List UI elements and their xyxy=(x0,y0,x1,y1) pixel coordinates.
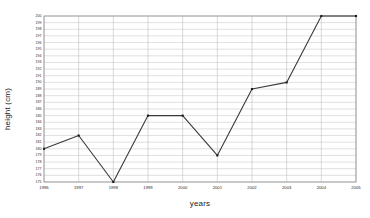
x-tick-label: 1997 xyxy=(74,185,84,190)
y-tick-label: 196 xyxy=(36,41,42,45)
y-tick-label: 198 xyxy=(36,27,42,31)
plot-area: 2001991981971961951941931921911901891881… xyxy=(0,0,370,218)
y-tick-label: 195 xyxy=(36,47,42,51)
y-tick-label: 200 xyxy=(36,14,42,18)
y-tick-label: 190 xyxy=(36,80,42,84)
y-tick-label: 197 xyxy=(36,34,42,38)
data-point-marker xyxy=(43,148,45,150)
y-tick-label: 178 xyxy=(36,160,42,164)
y-tick-label: 189 xyxy=(36,87,42,91)
y-tick-label: 188 xyxy=(36,94,42,98)
y-tick-label: 192 xyxy=(36,67,42,71)
y-tick-label: 179 xyxy=(36,153,42,157)
y-tick-label: 177 xyxy=(36,167,42,171)
y-tick-label: 199 xyxy=(36,21,42,25)
x-tick-label: 2000 xyxy=(178,185,188,190)
data-point-marker xyxy=(78,134,80,136)
y-tick-label: 185 xyxy=(36,114,42,118)
x-tick-label: 2005 xyxy=(351,185,361,190)
data-line xyxy=(44,16,356,182)
data-point-marker xyxy=(147,115,149,117)
x-tick-label: 2004 xyxy=(317,185,327,190)
data-point-marker xyxy=(112,181,114,183)
x-tick-label: 1996 xyxy=(39,185,49,190)
data-point-marker xyxy=(216,154,218,156)
x-tick-label: 1999 xyxy=(143,185,153,190)
x-tick-label: 2003 xyxy=(282,185,292,190)
y-tick-label: 186 xyxy=(36,107,42,111)
data-point-markers xyxy=(43,15,357,183)
y-tick-label: 193 xyxy=(36,60,42,64)
data-point-marker xyxy=(320,15,322,17)
x-tick-label: 2002 xyxy=(247,185,257,190)
data-point-marker xyxy=(182,115,184,117)
data-point-marker xyxy=(251,88,253,90)
vertical-gridlines xyxy=(44,16,356,182)
y-tick-label: 182 xyxy=(36,133,42,137)
y-tick-label: 183 xyxy=(36,127,42,131)
y-tick-label: 191 xyxy=(36,74,42,78)
horizontal-gridlines xyxy=(44,16,356,182)
y-tick-label: 175 xyxy=(36,180,42,184)
x-tick-label: 1998 xyxy=(109,185,119,190)
y-tick-label: 180 xyxy=(36,147,42,151)
data-point-marker xyxy=(355,15,357,17)
x-tick-label: 2001 xyxy=(213,185,223,190)
y-axis-title: height (cm) xyxy=(0,0,14,218)
y-axis-tick-labels: 2001991981971961951941931921911901891881… xyxy=(36,14,42,184)
x-axis-tick-labels: 1996199719981999200020012002200320042005 xyxy=(39,185,361,190)
y-tick-label: 187 xyxy=(36,100,42,104)
y-tick-label: 184 xyxy=(36,120,42,124)
y-tick-label: 176 xyxy=(36,173,42,177)
y-tick-label: 181 xyxy=(36,140,42,144)
y-tick-label: 194 xyxy=(36,54,42,58)
data-point-marker xyxy=(286,81,288,83)
x-axis-title: years xyxy=(44,199,356,208)
plot-frame xyxy=(44,16,356,182)
line-chart: 2001991981971961951941931921911901891881… xyxy=(0,0,370,218)
